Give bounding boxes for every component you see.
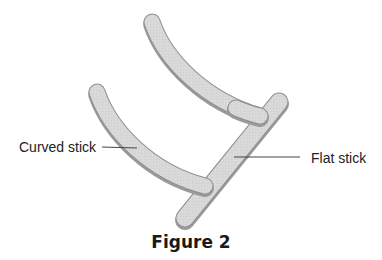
sticks-diagram [0,0,382,260]
flat-stick-label: Flat stick [311,150,366,166]
lower-curved-stick [97,92,205,188]
curved-stick-label: Curved stick [19,139,96,155]
figure-caption: Figure 2 [0,232,382,252]
upper-curved-stick-tip [236,108,260,118]
